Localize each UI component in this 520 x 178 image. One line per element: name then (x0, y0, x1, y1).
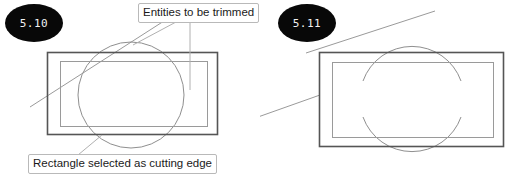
panel-after-trim: 5.11 (260, 0, 520, 178)
step-badge-before-label: 5.10 (20, 18, 49, 29)
leader-line-entities-diagonal (133, 22, 176, 45)
step-badge-before: 5.10 (5, 4, 63, 42)
step-badge-after-label: 5.11 (293, 18, 322, 29)
callout-entities-to-be-trimmed: Entities to be trimmed (138, 3, 259, 23)
outer-rectangle-cutting-edge (320, 53, 504, 147)
step-badge-after: 5.11 (278, 4, 336, 42)
panel-before-trim: 5.10 Entities to be trimmed Rectangle se… (0, 0, 260, 178)
inner-rectangle (333, 63, 494, 138)
callout-cutting-edge-label: Rectangle selected as cutting edge (33, 157, 212, 169)
circle-arc-top-remaining (363, 46, 461, 81)
callout-rectangle-cutting-edge: Rectangle selected as cutting edge (28, 154, 217, 174)
circle-entity (78, 42, 184, 148)
diagonal-segment-lower-remaining (260, 95, 320, 117)
leader-line-cutting-edge (78, 135, 102, 155)
figure-screenshot: 5.10 Entities to be trimmed Rectangle se… (0, 0, 520, 178)
callout-entities-label: Entities to be trimmed (143, 6, 254, 18)
outer-rectangle-cutting-edge (48, 53, 218, 135)
